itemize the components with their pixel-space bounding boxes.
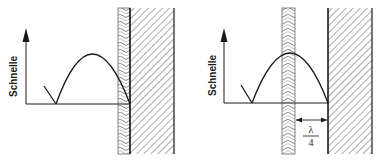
arrow-left-icon — [296, 118, 302, 123]
lambda-denominator: 4 — [309, 137, 314, 148]
right-panel: Schnelle λ 4 — [207, 8, 372, 154]
velocity-curve-tail — [44, 86, 56, 104]
y-axis-label: Schnelle — [207, 54, 218, 96]
porous-absorber-layer — [282, 8, 295, 154]
diagram-canvas: Schnelle Schnelle λ 4 — [0, 0, 382, 162]
velocity-curve-tail — [241, 85, 252, 103]
lambda-numerator: λ — [309, 124, 314, 135]
distance-dimension: λ 4 — [296, 118, 327, 149]
y-axis-arrow-icon — [23, 28, 30, 42]
wall-hatched — [130, 8, 174, 154]
y-axis-arrow-icon — [221, 28, 228, 42]
y-axis-label: Schnelle — [8, 55, 19, 97]
left-panel: Schnelle — [8, 8, 174, 154]
wall-hatched — [328, 8, 372, 154]
arrow-right-icon — [321, 118, 327, 123]
